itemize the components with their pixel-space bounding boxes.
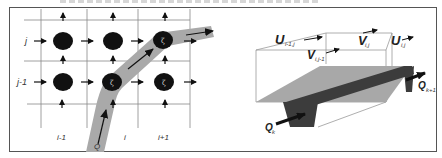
label-q-out: Q <box>418 80 426 91</box>
row-label-j: j <box>24 36 28 46</box>
label-u-left-sub: i-1,j <box>285 41 295 47</box>
label-q-out-sub: k+1 <box>426 87 436 93</box>
node-j-im1 <box>53 32 73 50</box>
left-grid-diagram: ζ ζ ζ j j-1 i-1 i i+1 Q <box>16 9 214 152</box>
col-label-im1: i-1 <box>57 133 66 142</box>
node-j-i <box>103 32 123 50</box>
label-q-in-sub: k <box>272 129 276 135</box>
node-jm1-im1 <box>53 73 73 91</box>
node-label: ζ <box>161 37 165 45</box>
label-v-bottom-sub: i,j-1 <box>315 56 325 62</box>
node-label: ζ <box>162 79 166 87</box>
flow-label-q: Q <box>94 142 100 151</box>
node-label: ζ <box>110 79 114 87</box>
right-control-volume-diagram: U i-1,j V i,j U i,j V i,j-1 Q k Q k+1 <box>256 30 436 135</box>
label-v-top-sub: i,j <box>365 42 370 48</box>
row-label-jm1: j-1 <box>16 77 27 87</box>
col-label-ip1: i+1 <box>158 133 169 142</box>
col-label-i: i <box>124 133 126 142</box>
label-u-right: U <box>391 33 401 48</box>
label-u-left: U <box>275 32 285 47</box>
label-u-right-sub: i,j <box>401 42 406 48</box>
diagram-canvas: ζ ζ ζ j j-1 i-1 i i+1 Q <box>0 0 442 158</box>
